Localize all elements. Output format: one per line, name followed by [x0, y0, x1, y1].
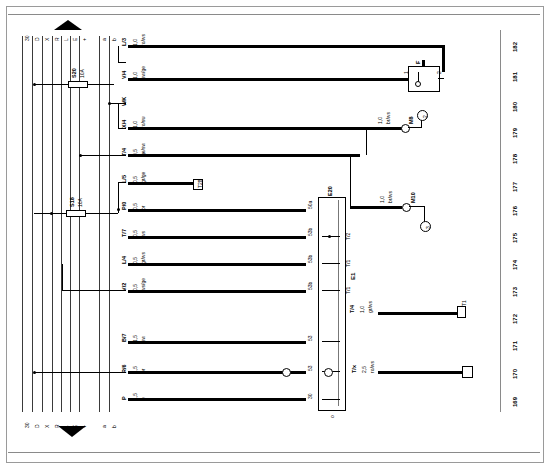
- switch-f-body[interactable]: [408, 66, 440, 92]
- bus-label-top-x: X: [45, 38, 50, 41]
- switch-contact-lead-6: [322, 399, 340, 400]
- switch-pin-left-2: 53b: [308, 228, 313, 236]
- switch-f-pin-right: 2: [437, 71, 442, 74]
- bus-label-bottom-b: b: [112, 425, 117, 428]
- wire-4-color: ro/sw: [141, 116, 146, 128]
- wire-6-pin: L/5: [122, 175, 128, 183]
- wire-12-feed: [34, 372, 126, 373]
- branch-t1-gauge: 1,0: [360, 306, 365, 313]
- track-number-170: 170: [512, 369, 518, 379]
- crossover-marker-1: [324, 368, 333, 377]
- wire-run-13: [128, 398, 306, 401]
- ground-2-lead: [409, 206, 425, 207]
- wire-2-gauge: 1,0: [133, 72, 138, 79]
- wire-12-pin: R/6: [122, 364, 128, 373]
- wire-run-8: [128, 236, 306, 239]
- connector-t2[interactable]: [462, 366, 473, 378]
- switch-pin-right-3: T/1: [346, 260, 351, 267]
- wire-10-feed: [62, 290, 126, 291]
- track-number-173: 173: [512, 287, 518, 297]
- switch-f-lead-left: [398, 78, 408, 79]
- ground-2-wire: [350, 206, 402, 209]
- wire-run-2: [128, 78, 424, 81]
- wire-5-junction: [79, 154, 82, 157]
- wire-4-stub: [118, 128, 126, 129]
- ground-1-riser: [366, 127, 367, 155]
- switch-block-bottom-label: o: [330, 415, 335, 418]
- wire-7-gauge: 0,5: [133, 203, 138, 210]
- ground-1-ref: 2: [423, 115, 428, 118]
- bus-label-top-d: D: [35, 37, 40, 41]
- fuse-s18-body[interactable]: [66, 210, 86, 217]
- bus-label-top-30: 30: [25, 35, 30, 41]
- bus-label-top-a: a: [102, 38, 107, 41]
- ground-2-ref: 3: [426, 226, 431, 229]
- wire-7-pin: P/0: [122, 202, 128, 210]
- wire-6-color: gr/ge: [141, 172, 146, 183]
- wire-5-gauge: 0,5: [133, 149, 138, 156]
- bus-label-top-e: E: [73, 38, 78, 41]
- switch-f-pin-left: 1: [404, 71, 409, 74]
- wire-13-pin: P: [122, 396, 128, 400]
- branch-t1-color: gr/ws: [368, 301, 373, 313]
- fuse-s20-body[interactable]: [68, 81, 88, 88]
- ground-2-gauge: 1,0: [380, 196, 385, 203]
- fuse-s18-id: S18: [70, 197, 76, 207]
- switch-block-e1[interactable]: [318, 197, 346, 411]
- bus-label-top-l: L: [64, 38, 69, 41]
- switch-contact-lead-3: [322, 290, 340, 291]
- wire-11-gauge: 1,5: [133, 335, 138, 342]
- track-number-177: 177: [512, 182, 518, 192]
- wire-5-color: ge/sw: [141, 143, 146, 156]
- switch-pin-left-4: 53b: [308, 282, 313, 290]
- track-number-179: 179: [512, 128, 518, 138]
- ground-1-label: M8: [409, 116, 415, 124]
- wire-8-pin: T/7: [122, 229, 128, 237]
- fuse-s20-id: S20: [72, 68, 78, 78]
- track-number-180: 180: [512, 102, 518, 112]
- switch-block-e20-terminal: E20: [328, 186, 334, 196]
- wire-run-9: [128, 263, 306, 266]
- bus-bar-d: [32, 36, 33, 412]
- component-t28-label: T28: [198, 179, 203, 188]
- track-number-171: 171: [512, 341, 518, 351]
- switch-pin-right-2: T/2: [346, 233, 351, 240]
- bus-label-bottom-x: X: [45, 425, 50, 428]
- wire-13-color: e: [141, 397, 146, 400]
- track-number-182: 182: [512, 42, 518, 52]
- wire-10-color: ws/ge: [141, 278, 146, 291]
- wire-2-color: sw/ge: [141, 66, 146, 79]
- switch-pin-right-4: T/1: [346, 287, 351, 294]
- flow-arrow-top-icon: [54, 20, 82, 30]
- bus-label-bottom-a: a: [102, 425, 107, 428]
- track-number-172: 172: [512, 314, 518, 324]
- switch-pin-left-7: 30: [308, 393, 313, 399]
- wire-9-pin: L/4: [122, 256, 128, 264]
- ground-2-label: M10: [411, 192, 417, 203]
- wire-8-gauge: 0,5: [133, 230, 138, 237]
- switch-f-id: F: [416, 61, 422, 64]
- wire-5-feed: [80, 155, 126, 156]
- branch-t2-pin: T/x: [352, 365, 358, 373]
- switch-block-e1-id: E1: [350, 273, 356, 280]
- wire-run-4: [128, 127, 390, 130]
- bus-label-top-b: b: [112, 38, 117, 41]
- switch-contact-lead-2: [322, 263, 340, 264]
- bus-bar-l: [61, 36, 62, 412]
- wire-run-1-riser: [442, 45, 445, 72]
- wire-7-junction: [117, 208, 120, 211]
- bottom-rule: [8, 452, 540, 453]
- wire-run-1: [128, 45, 444, 48]
- bus-bar-b: [109, 36, 110, 412]
- wire-10-drop: [62, 264, 63, 290]
- ground-2-ref-lead: [424, 206, 425, 222]
- branch-wire-t1: [378, 312, 458, 315]
- track-number-178: 178: [512, 154, 518, 164]
- wire-1-color: ro/ws: [141, 34, 146, 46]
- wire-run-7: [128, 209, 306, 212]
- track-number-175: 175: [512, 233, 518, 243]
- switch-contact-lead-4: [322, 341, 340, 342]
- wire-1-stub: [118, 62, 126, 63]
- wire-1-pin: L/3: [122, 38, 128, 46]
- connector-t1[interactable]: [457, 306, 466, 318]
